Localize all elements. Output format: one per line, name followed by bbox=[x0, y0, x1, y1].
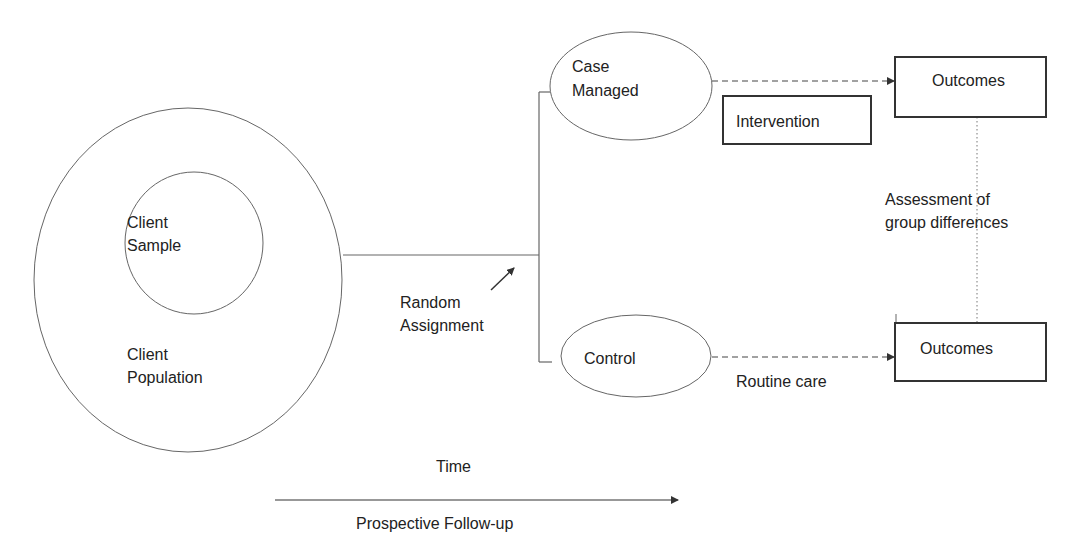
case-managed-label-2: Managed bbox=[572, 79, 639, 102]
intervention-label: Intervention bbox=[736, 110, 870, 133]
case-managed-label-1: Case bbox=[572, 55, 609, 78]
population-label-2: Population bbox=[127, 366, 203, 389]
population-label-1: Client bbox=[127, 343, 168, 366]
follow-up-label: Prospective Follow-up bbox=[356, 512, 513, 534]
routine-care-label: Routine care bbox=[736, 370, 827, 393]
outcomes-top-label: Outcomes bbox=[932, 69, 1045, 92]
random-assignment-arrow bbox=[491, 268, 514, 290]
outcomes-top-box: Outcomes bbox=[894, 56, 1047, 118]
time-label: Time bbox=[436, 455, 471, 478]
control-label: Control bbox=[584, 347, 636, 370]
outcomes-bottom-box: Outcomes bbox=[894, 322, 1047, 382]
assessment-label-1: Assessment of bbox=[885, 188, 990, 211]
random-assignment-label-2: Assignment bbox=[400, 314, 484, 337]
population-ellipse bbox=[34, 108, 342, 452]
random-assignment-label-1: Random bbox=[400, 291, 460, 314]
intervention-box: Intervention bbox=[722, 95, 872, 145]
sample-label-2: Sample bbox=[127, 234, 181, 257]
assessment-label-2: group differences bbox=[885, 211, 1008, 234]
outcomes-bottom-label: Outcomes bbox=[920, 337, 1045, 360]
sample-label-1: Client bbox=[127, 211, 168, 234]
